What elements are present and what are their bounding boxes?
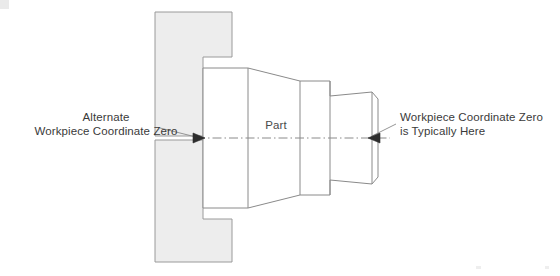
alternate-zero-label-line1: Alternate (8, 110, 204, 124)
scan-artifact (0, 0, 9, 9)
typical-zero-label-line1: Workpiece Coordinate Zero (400, 110, 560, 124)
part-label: Part (236, 118, 316, 132)
scan-speckle-b (545, 266, 549, 269)
diagram-canvas: Alternate Workpiece Coordinate Zero Work… (0, 0, 560, 276)
scan-speckle-a (476, 266, 481, 269)
typical-zero-label: Workpiece Coordinate Zero is Typically H… (400, 110, 560, 138)
alternate-zero-label-line2: Workpiece Coordinate Zero (8, 124, 204, 138)
alternate-zero-label: Alternate Workpiece Coordinate Zero (8, 110, 204, 138)
typical-zero-label-line2: is Typically Here (400, 124, 560, 138)
technical-drawing (0, 0, 560, 276)
